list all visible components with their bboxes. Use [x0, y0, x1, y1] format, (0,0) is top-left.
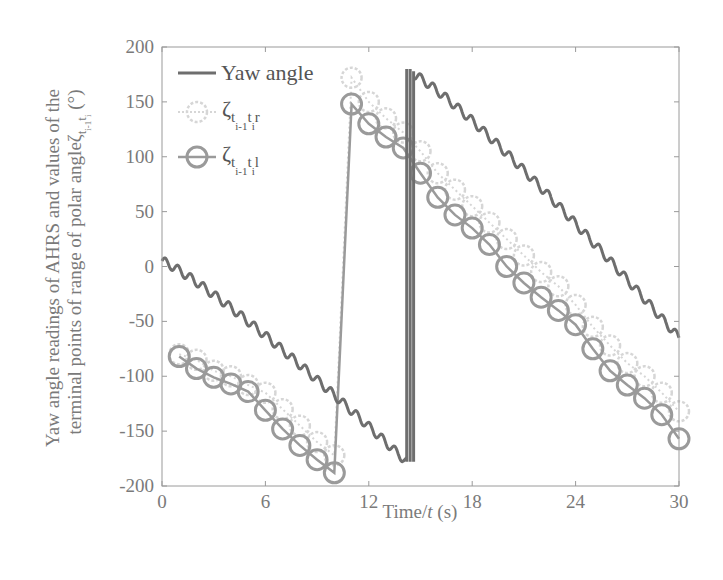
x-tick-label: 24: [566, 491, 586, 512]
y-axis-label-line2: terminal points of range of polar angleζ…: [64, 90, 93, 435]
x-tick-label: 0: [157, 491, 167, 512]
x-tick-label: 18: [463, 491, 482, 512]
y-tick-label: -100: [119, 365, 154, 386]
y-tick-label: 200: [126, 36, 155, 57]
x-tick-label: 12: [359, 491, 378, 512]
y-tick-label: 50: [135, 201, 154, 222]
y-tick-label: 150: [126, 91, 155, 112]
legend-l-label: ζti-1til: [222, 141, 259, 177]
y-tick-label: -150: [119, 420, 154, 441]
axes-frame: [162, 47, 679, 486]
y-tick-label: 100: [126, 146, 155, 167]
y-axis-label-line1: Yaw angle readings of AHRS and values of…: [42, 89, 63, 447]
x-tick-label: 30: [670, 491, 689, 512]
y-axis-label: Yaw angle readings of AHRS and values of…: [42, 89, 93, 447]
legend-r-label: ζti-1tir: [222, 96, 260, 132]
y-tick-label: -50: [129, 310, 154, 331]
chart: 0612182430200150100500-50-100-150-200 Ya…: [0, 0, 723, 580]
y-tick-label: -200: [119, 475, 154, 496]
legend-yaw-label: Yaw angle: [221, 60, 313, 85]
y-tick-label: 0: [145, 256, 155, 277]
x-tick-label: 6: [261, 491, 271, 512]
x-axis-label: Time/t (s): [383, 501, 458, 523]
legend: Yaw angle ζti-1tir ζti-1til: [178, 60, 313, 177]
